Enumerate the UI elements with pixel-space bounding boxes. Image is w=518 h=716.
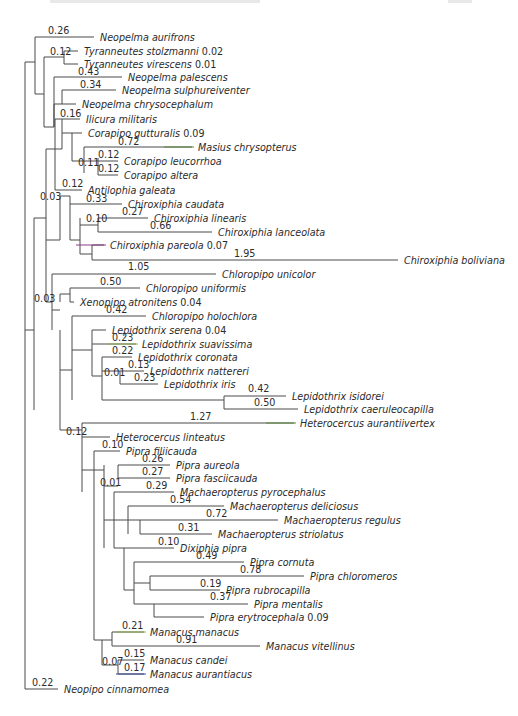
taxon-label: Machaeropterus deliciosus bbox=[230, 501, 358, 512]
branch-length: 0.27 bbox=[122, 206, 143, 217]
branch-length: 0.42 bbox=[106, 304, 127, 315]
internal-branch-length: 0.07 bbox=[102, 656, 123, 667]
internal-branch-length: 0.10 bbox=[86, 213, 107, 224]
branch-length: 0.10 bbox=[158, 536, 179, 547]
internal-branch-length: 0.01 bbox=[100, 477, 121, 488]
branch-length: 0.19 bbox=[200, 578, 221, 589]
branch-length: 0.50 bbox=[100, 276, 121, 287]
branch-length: 0.12 bbox=[62, 178, 83, 189]
taxon-label: Machaeropterus striolatus bbox=[218, 529, 344, 540]
branch-length: 0.31 bbox=[178, 522, 199, 533]
taxon-label: Chiroxiphia boliviana bbox=[404, 255, 505, 266]
branch-length: 0.07 bbox=[204, 240, 228, 251]
branch-length: 0.22 bbox=[112, 345, 133, 356]
branch-length: 0.27 bbox=[142, 466, 163, 477]
taxon-label: Pipra erytrocephala 0.09 bbox=[210, 612, 329, 623]
taxon-label: Manacus vitellinus bbox=[266, 641, 355, 652]
taxon-label: Lepidothrix iris bbox=[164, 379, 235, 390]
branch-length: 0.12 bbox=[66, 426, 87, 437]
taxon-label: Lepidothrix caeruleocapilla bbox=[304, 404, 434, 415]
taxon-label: Machaeropterus pyrocephalus bbox=[180, 487, 326, 498]
taxon-label: Machaeropterus regulus bbox=[284, 515, 401, 526]
branch-length: 0.33 bbox=[86, 193, 107, 204]
branch-length: 0.91 bbox=[176, 634, 197, 645]
branch-length: 0.17 bbox=[124, 662, 145, 673]
taxon-label: Pipra chloromeros bbox=[310, 571, 397, 582]
taxon-label: Corapipo altera bbox=[124, 170, 198, 181]
taxon-label: Pipra fasciicauda bbox=[176, 473, 258, 484]
taxon-label: Chiroxiphia lanceolata bbox=[218, 227, 325, 238]
taxon-label: Ilicura militaris bbox=[86, 114, 157, 125]
branch-length: 0.23 bbox=[112, 332, 133, 343]
internal-branch-length: 0.03 bbox=[34, 293, 55, 304]
branch-length: 0.34 bbox=[80, 79, 101, 90]
taxon-label: Masius chrysopterus bbox=[198, 142, 297, 153]
internal-branch-length: 0.03 bbox=[40, 191, 61, 202]
branch-length: 0.54 bbox=[170, 494, 191, 505]
branch-length: 0.09 bbox=[180, 128, 204, 139]
branch-length: 1.27 bbox=[190, 411, 211, 422]
branch-length: 0.22 bbox=[32, 677, 53, 688]
taxon-label: Heterocercus linteatus bbox=[116, 432, 225, 443]
taxon-label: Chloropipo holochlora bbox=[152, 311, 257, 322]
branch-length: 0.02 bbox=[199, 46, 223, 57]
taxon-label: Lepidothrix suavissima bbox=[142, 339, 252, 350]
branch-length: 0.72 bbox=[118, 136, 139, 147]
branch-length: 1.95 bbox=[234, 248, 255, 259]
branch-length: 0.13 bbox=[128, 359, 149, 370]
taxon-label: Pipra mentalis bbox=[254, 599, 323, 610]
branch-length: 0.42 bbox=[248, 383, 269, 394]
taxon-label: Neopelma aurifrons bbox=[100, 32, 195, 43]
taxon-label: Lepidothrix isidorei bbox=[292, 391, 384, 402]
branch-length: 0.09 bbox=[304, 612, 328, 623]
taxon-label: Xenopipo atronitens 0.04 bbox=[79, 297, 202, 308]
branch-length: 0.37 bbox=[210, 591, 231, 602]
taxon-label: Pipra rubrocapilla bbox=[226, 585, 311, 596]
branch-length: 0.21 bbox=[122, 620, 143, 631]
taxon-label: Neopelma palescens bbox=[128, 72, 228, 83]
taxon-label: Corapipo gutturalis 0.09 bbox=[88, 128, 205, 139]
branch-length: 0.12 bbox=[98, 149, 119, 160]
phylogenetic-tree: Neopelma aurifrons0.26Tyranneutes stolzm… bbox=[0, 0, 518, 716]
taxon-label: Tyranneutes stolzmanni 0.02 bbox=[84, 46, 223, 57]
taxon-label: Lepidothrix nattereri bbox=[150, 366, 249, 377]
taxon-label: Neopelma chrysocephalum bbox=[82, 99, 213, 110]
branch-length: 0.43 bbox=[78, 66, 99, 77]
branch-length: 0.78 bbox=[240, 564, 261, 575]
branch-length: 0.12 bbox=[98, 163, 119, 174]
internal-branch-length: 0.01 bbox=[104, 367, 125, 378]
taxon-label: Neopelma sulphureiventer bbox=[122, 85, 251, 96]
branch-length: 1.05 bbox=[128, 261, 149, 272]
branch-length: 0.49 bbox=[196, 550, 217, 561]
branch-length: 0.29 bbox=[146, 480, 167, 491]
taxon-label: Lepidothrix coronata bbox=[138, 352, 238, 363]
tree-labels: Neopelma aurifrons0.26Tyranneutes stolzm… bbox=[32, 25, 505, 695]
taxon-label: Neopipo cinnamomea bbox=[64, 684, 169, 695]
branch-length: 0.10 bbox=[102, 439, 123, 450]
branch-length: 0.23 bbox=[134, 372, 155, 383]
taxon-label: Corapipo leucorrhoa bbox=[124, 156, 222, 167]
branch-length: 0.12 bbox=[50, 46, 71, 57]
branch-length: 0.26 bbox=[48, 25, 69, 36]
branch-length: 0.66 bbox=[150, 220, 171, 231]
branch-length: 0.15 bbox=[124, 648, 145, 659]
branch-length: 0.50 bbox=[254, 397, 275, 408]
branch-length: 0.26 bbox=[142, 453, 163, 464]
taxon-label: Chloropipo unicolor bbox=[222, 269, 316, 280]
branch-length: 0.04 bbox=[177, 297, 201, 308]
branch-length: 0.72 bbox=[206, 508, 227, 519]
branch-length: 0.01 bbox=[192, 59, 216, 70]
taxon-label: Tyranneutes virescens 0.01 bbox=[84, 59, 216, 70]
taxon-label: Pipra aureola bbox=[176, 460, 240, 471]
taxon-label: Chiroxiphia pareola 0.07 bbox=[110, 240, 228, 251]
taxon-label: Manacus aurantiacus bbox=[150, 669, 252, 680]
taxon-label: Heterocercus aurantiivertex bbox=[300, 418, 435, 429]
internal-branch-length: 0.11 bbox=[78, 157, 99, 168]
taxon-label: Manacus candei bbox=[150, 655, 228, 666]
branch-length: 0.04 bbox=[202, 325, 226, 336]
taxon-label: Chloropipo uniformis bbox=[146, 283, 246, 294]
branch-length: 0.16 bbox=[60, 108, 81, 119]
